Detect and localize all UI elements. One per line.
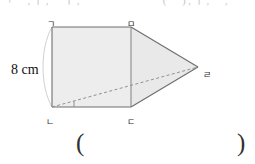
answer-blank: ( ) (0, 128, 255, 162)
answer-input-space[interactable] (88, 132, 234, 156)
top-text-fragment-right: ㅡ ( ㅡ ) , ㅣ , ㅡ , (150, 0, 228, 7)
rectangle-face (52, 27, 131, 107)
dimension-arc (43, 27, 52, 107)
triangle-face (131, 27, 198, 107)
vertex-label-apex: ㄹ (203, 71, 211, 80)
answer-close-paren: ) (237, 128, 245, 158)
vertex-label-top-right: ㅁ (127, 20, 135, 29)
vertex-label-bottom-left: ㄴ (46, 118, 54, 127)
geometry-figure: ㄱ ㅁ ㄴ ㄷ ㄹ 8 cm (0, 8, 255, 120)
vertex-label-top-left: ㄱ (47, 20, 55, 29)
vertex-label-bottom-right: ㄷ (127, 118, 135, 127)
answer-open-paren: ( (76, 128, 84, 158)
top-text-fragment-left: ㄱ ㅡ , ㅣ , ㅡ ㅣ , ㅡ (2, 0, 92, 7)
side-length-label: 8 cm (11, 63, 39, 77)
